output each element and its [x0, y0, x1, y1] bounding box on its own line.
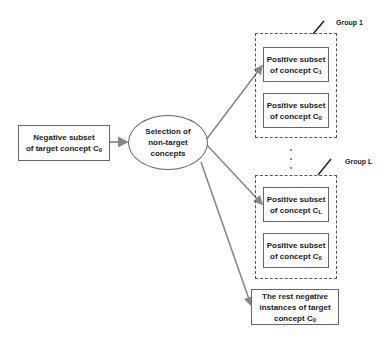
- groupL-positive-cL-box: Positive subset of concept CL: [263, 187, 329, 222]
- box-line1: Positive subset: [267, 194, 326, 205]
- box-line1: Positive subset: [267, 54, 326, 65]
- selection-line1: Selection of: [145, 126, 190, 137]
- selection-line2: non-target: [145, 137, 190, 148]
- box-text: of concept C: [270, 66, 318, 75]
- rest-line2: instances of target: [259, 302, 330, 313]
- group1-positive-c0-box: Positive subset of concept C0: [263, 93, 329, 128]
- ellipsis-dot: [290, 149, 292, 151]
- group-1-label: Group 1: [336, 19, 363, 26]
- box-line2: of concept CL: [267, 205, 326, 216]
- box-line1: Positive subset: [267, 240, 326, 251]
- box-text: of concept C: [270, 112, 318, 121]
- subscript: 0: [99, 147, 102, 153]
- rest-negative-box: The rest negative instances of target co…: [251, 289, 339, 325]
- subscript: 0: [319, 255, 322, 261]
- groupL-positive-c0-box: Positive subset of concept C0: [263, 233, 329, 268]
- arrow-selector-to-groupL: [206, 144, 262, 204]
- group1-positive-c1-box: Positive subset of concept C1: [263, 47, 329, 82]
- box-text: of concept C: [270, 206, 318, 215]
- ellipsis-dot: [290, 158, 292, 160]
- ellipsis-dot: [290, 167, 292, 169]
- negative-subset-line2: of target concept C0: [26, 143, 102, 154]
- diagram-canvas: Negative subset of target concept C0 Sel…: [0, 0, 385, 341]
- negative-subset-line1: Negative subset: [26, 132, 102, 143]
- arrow-selector-to-group1: [206, 66, 262, 140]
- rest-line1: The rest negative: [259, 291, 330, 302]
- groupL-marker-slash: [318, 159, 331, 175]
- subscript: 0: [319, 115, 322, 121]
- box-line2: of concept C1: [267, 65, 326, 76]
- negative-subset-box: Negative subset of target concept C0: [18, 125, 110, 161]
- negative-subset-text: of target concept C: [26, 144, 99, 153]
- rest-line3: concept C0: [259, 313, 330, 324]
- group-L-label: Group L: [345, 158, 372, 165]
- subscript: 1: [319, 69, 322, 75]
- box-line2: of concept C0: [267, 251, 326, 262]
- box-line1: Positive subset: [267, 100, 326, 111]
- box-text: of concept C: [270, 252, 318, 261]
- subscript: L: [318, 209, 322, 215]
- rest-text: concept C: [274, 314, 313, 323]
- selection-ellipse: Selection of non-target concepts: [128, 115, 208, 170]
- box-line2: of concept C0: [267, 111, 326, 122]
- selection-line3: concepts: [145, 148, 190, 159]
- subscript: 0: [313, 317, 316, 323]
